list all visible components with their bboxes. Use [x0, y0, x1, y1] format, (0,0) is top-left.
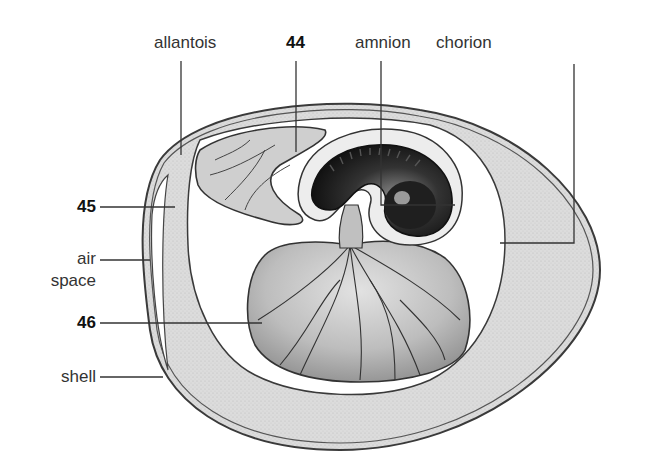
- yolk-stalk: [339, 205, 363, 248]
- label-chorion: chorion: [436, 33, 492, 53]
- label-allantois: allantois: [154, 33, 216, 53]
- egg-diagram: [0, 0, 656, 473]
- label-shell: shell: [30, 367, 96, 387]
- embryo-eye: [394, 191, 410, 205]
- label-amnion: amnion: [355, 33, 411, 53]
- label-44: 44: [286, 33, 305, 53]
- label-space: space: [30, 271, 96, 291]
- label-45: 45: [70, 197, 96, 217]
- label-air: air: [50, 249, 96, 269]
- label-46: 46: [70, 313, 96, 333]
